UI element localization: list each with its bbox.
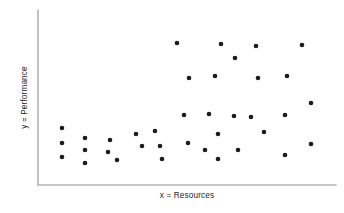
- data-point: [216, 157, 221, 162]
- data-point: [233, 56, 238, 61]
- axes-group: [38, 10, 336, 185]
- data-point: [256, 76, 261, 81]
- data-point: [203, 148, 208, 153]
- data-point: [175, 41, 180, 46]
- data-point: [285, 74, 290, 79]
- data-point: [283, 113, 288, 118]
- data-point: [83, 161, 88, 166]
- data-point: [300, 43, 305, 48]
- data-points-group: [60, 41, 314, 166]
- data-point: [236, 148, 241, 153]
- data-point: [134, 132, 139, 137]
- data-point: [207, 112, 212, 117]
- data-point: [160, 157, 165, 162]
- scatter-plot-figure: x = Resources y = Performance: [0, 0, 344, 213]
- data-point: [106, 150, 111, 155]
- data-point: [60, 126, 65, 131]
- data-point: [60, 141, 65, 146]
- y-axis-label: y = Performance: [19, 10, 30, 185]
- data-point: [153, 129, 158, 134]
- data-point: [60, 155, 65, 160]
- data-point: [186, 141, 191, 146]
- data-point: [254, 44, 259, 49]
- data-point: [83, 136, 88, 141]
- data-point: [187, 76, 192, 81]
- data-point: [158, 144, 163, 149]
- data-point: [283, 153, 288, 158]
- data-point: [83, 148, 88, 153]
- data-point: [219, 42, 224, 47]
- x-axis-label: x = Resources: [38, 190, 336, 201]
- data-point: [216, 132, 221, 137]
- plot-canvas: [0, 0, 344, 213]
- data-point: [213, 74, 218, 79]
- data-point: [232, 114, 237, 119]
- data-point: [140, 144, 145, 149]
- data-point: [249, 115, 254, 120]
- data-point: [182, 113, 187, 118]
- data-point: [108, 138, 113, 143]
- data-point: [309, 142, 314, 147]
- data-point: [115, 158, 120, 163]
- data-point: [262, 130, 267, 135]
- data-point: [309, 101, 314, 106]
